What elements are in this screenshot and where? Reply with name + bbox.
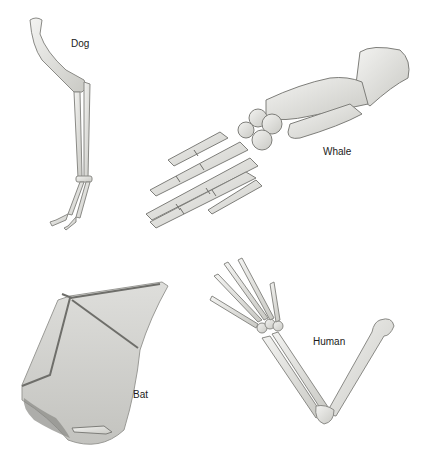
- dog-limb: [30, 18, 92, 230]
- human-label: Human: [313, 336, 345, 347]
- whale-label: Whale: [323, 146, 351, 157]
- homology-figure: Dog Whale Bat Human: [0, 0, 430, 471]
- limb-illustrations: [0, 0, 430, 471]
- dog-label: Dog: [71, 38, 89, 49]
- bat-wing: [22, 282, 168, 444]
- bat-label: Bat: [133, 389, 148, 400]
- human-arm: [210, 258, 394, 424]
- whale-flipper: [146, 47, 409, 228]
